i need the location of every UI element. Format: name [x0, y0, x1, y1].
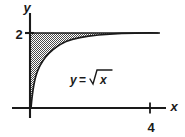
curve-label-lhs: y	[69, 73, 78, 87]
x-axis-label: x	[169, 99, 178, 114]
x-tick-label-4: 4	[147, 120, 155, 135]
y-tick-label-2: 2	[15, 27, 22, 42]
curve-label-radicand: x	[99, 73, 108, 87]
shaded-region	[31, 33, 158, 108]
math-figure: y x 2 4 y = x	[0, 0, 185, 137]
figure-canvas: y x 2 4 y = x	[0, 0, 185, 137]
y-axis-label: y	[22, 0, 31, 15]
curve-label-equals: =	[79, 73, 86, 87]
curve-equation-label: y = x	[69, 70, 112, 87]
